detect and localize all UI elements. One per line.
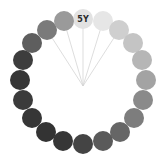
hue-circle-diagram: 5Y Grayscale hue circle: [0, 0, 165, 165]
color-chip: [123, 33, 143, 53]
connector-line: [64, 21, 83, 86]
color-chip: [93, 131, 113, 151]
hue-circle-svg: 5Y: [0, 0, 165, 165]
chip-circle: [53, 131, 73, 151]
color-chip: 5Y: [73, 9, 93, 29]
color-chip: [133, 90, 153, 110]
color-chip: [54, 11, 74, 31]
chip-circle: [13, 90, 33, 110]
color-chip: [37, 20, 57, 40]
color-chip: [110, 122, 130, 142]
color-chip: [136, 70, 156, 90]
chip-circle: [110, 122, 130, 142]
chip-label: 5Y: [77, 15, 89, 24]
chip-circle: [73, 134, 93, 154]
chip-circle: [123, 33, 143, 53]
color-chip: [13, 50, 33, 70]
connector-line: [83, 21, 103, 86]
color-chip: [22, 108, 42, 128]
chip-circle: [132, 50, 152, 70]
chip-circle: [133, 90, 153, 110]
color-chip: [10, 70, 30, 90]
chip-circle: [10, 70, 30, 90]
color-chip: [13, 90, 33, 110]
color-chip: [132, 50, 152, 70]
chip-circle: [13, 50, 33, 70]
color-chip: [73, 134, 93, 154]
color-chip: [53, 131, 73, 151]
chip-circle: [54, 11, 74, 31]
chip-circle: [136, 70, 156, 90]
chip-circle: [37, 20, 57, 40]
chip-circle: [93, 131, 113, 151]
chip-circle: [22, 108, 42, 128]
